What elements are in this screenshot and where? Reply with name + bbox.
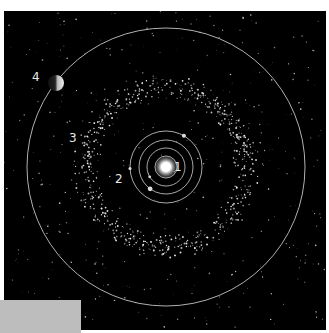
label-3: 3: [69, 132, 77, 144]
label-4: 4: [32, 71, 40, 83]
outer-planet-icon: [48, 75, 64, 91]
label-2: 2: [115, 173, 123, 185]
gray-overlay-box: [0, 300, 81, 333]
label-1: 1: [174, 161, 182, 173]
sun-core: [161, 162, 171, 172]
solar-system-graphic: [4, 11, 326, 330]
space-diagram: 1 2 3 4: [4, 11, 326, 330]
